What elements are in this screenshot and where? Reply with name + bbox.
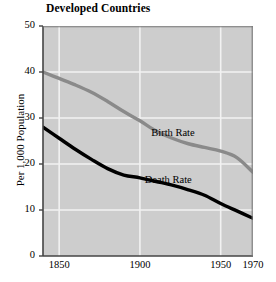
y-tick-label: 30 — [13, 111, 35, 122]
plot-background — [43, 26, 253, 256]
y-tick-label: 50 — [13, 19, 35, 30]
y-tick-label: 40 — [13, 65, 35, 76]
plot-area — [0, 0, 276, 282]
x-tick-label: 1850 — [39, 259, 79, 270]
y-tick-label: 10 — [13, 203, 35, 214]
chart-figure: Developed Countries Per 1,000 Population… — [0, 0, 276, 282]
series-label-birth-rate: Birth Rate — [151, 127, 194, 138]
x-tick-label: 1970 — [233, 259, 273, 270]
series-label-death-rate: Death Rate — [145, 174, 192, 185]
y-tick-label: 20 — [13, 157, 35, 168]
y-tick-label: 0 — [13, 249, 35, 260]
x-tick-label: 1900 — [120, 259, 160, 270]
